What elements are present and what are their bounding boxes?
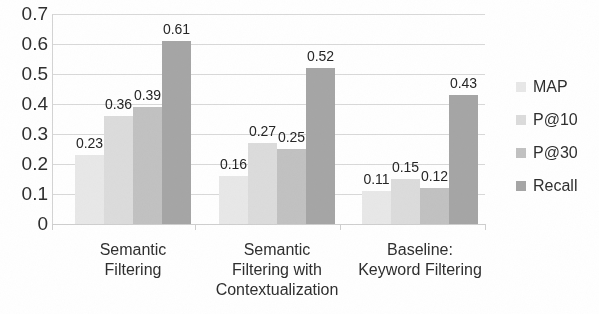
bar <box>420 188 449 224</box>
x-axis-category-label-line: Filtering with <box>197 260 357 280</box>
legend-item: MAP <box>516 70 599 103</box>
category-tick <box>485 224 486 230</box>
legend-swatch <box>516 82 526 92</box>
bar <box>306 68 335 224</box>
bar-value-label: 0.52 <box>299 49 343 63</box>
bar-chart: 0.70.60.50.40.30.20.10 0.230.360.390.610… <box>0 0 599 314</box>
bar-value-label: 0.43 <box>442 76 486 90</box>
legend: MAPP@10P@30Recall <box>516 70 599 202</box>
category-tick <box>340 224 341 230</box>
bar-value-label: 0.39 <box>126 88 170 102</box>
x-axis-category-label: Baseline:Keyword Filtering <box>338 240 503 280</box>
x-axis-category-label: SemanticFiltering <box>58 240 208 280</box>
legend-item: P@10 <box>516 103 599 136</box>
bar <box>362 191 391 224</box>
x-axis-category-label-line: Filtering <box>58 260 208 280</box>
legend-swatch <box>516 148 526 158</box>
x-axis-category-label-line: Keyword Filtering <box>338 260 503 280</box>
y-axis-tick-label: 0 <box>4 214 48 233</box>
y-axis-tick-label: 0.1 <box>4 184 48 203</box>
bar <box>219 176 248 224</box>
bar <box>133 107 162 224</box>
y-axis-tick-label: 0.7 <box>4 4 48 23</box>
x-axis-category-label: SemanticFiltering withContextualization <box>197 240 357 300</box>
y-axis-tick-label: 0.5 <box>4 64 48 83</box>
x-axis-line <box>52 224 486 225</box>
legend-label: P@10 <box>533 112 578 128</box>
bar-value-label: 0.16 <box>212 157 256 171</box>
y-axis-tick-label: 0.6 <box>4 34 48 53</box>
bar <box>449 95 478 224</box>
bar-value-label: 0.23 <box>68 136 112 150</box>
x-axis-category-label-line: Semantic <box>197 240 357 260</box>
bar <box>248 143 277 224</box>
y-axis-tick-label: 0.2 <box>4 154 48 173</box>
y-axis-tick-label: 0.4 <box>4 94 48 113</box>
x-axis-category-label-line: Baseline: <box>338 240 503 260</box>
plot-area <box>52 14 485 224</box>
y-axis-tick-label: 0.3 <box>4 124 48 143</box>
bar <box>104 116 133 224</box>
legend-swatch <box>516 181 526 191</box>
bar <box>162 41 191 224</box>
bar <box>75 155 104 224</box>
bar-value-label: 0.12 <box>413 169 457 183</box>
x-axis-category-label-line: Contextualization <box>197 280 357 300</box>
category-tick <box>195 224 196 230</box>
category-tick <box>52 224 53 230</box>
legend-label: P@30 <box>533 145 578 161</box>
bar <box>277 149 306 224</box>
bar-value-label: 0.61 <box>155 22 199 36</box>
bar-value-label: 0.25 <box>270 130 314 144</box>
legend-label: MAP <box>533 79 568 95</box>
legend-label: Recall <box>533 178 577 194</box>
legend-swatch <box>516 115 526 125</box>
x-axis-category-label-line: Semantic <box>58 240 208 260</box>
y-axis-tick-labels: 0.70.60.50.40.30.20.10 <box>0 0 48 314</box>
legend-item: P@30 <box>516 136 599 169</box>
legend-item: Recall <box>516 169 599 202</box>
